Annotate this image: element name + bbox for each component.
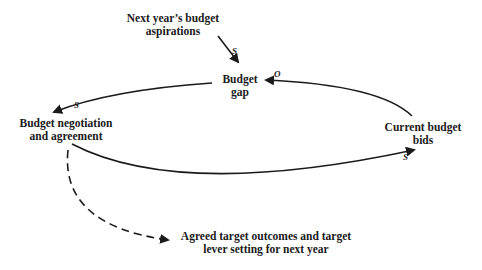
node-label-line1: Next year’s budget	[118, 12, 228, 25]
node-label-line2: and agreement	[16, 130, 116, 143]
node-budget-gap: Budget gap	[212, 73, 268, 99]
node-label-line2: gap	[212, 86, 268, 99]
node-label-line1: Agreed target outcomes and target	[176, 230, 356, 243]
node-next-years-budget-aspirations: Next year’s budget aspirations	[118, 12, 228, 38]
node-label-line1: Current budget	[378, 121, 468, 134]
node-current-budget-bids: Current budget bids	[378, 121, 468, 147]
link-bids-to-gap	[266, 80, 412, 116]
link-negotiation-to-targets-dashed	[67, 150, 168, 240]
node-label-line1: Budget	[212, 73, 268, 86]
polarity-bids-to-gap: O	[274, 69, 281, 79]
node-budget-negotiation-and-agreement: Budget negotiation and agreement	[16, 117, 116, 143]
node-agreed-target-outcomes: Agreed target outcomes and target lever …	[176, 230, 356, 256]
node-label-line1: Budget negotiation	[16, 117, 116, 130]
node-label-line2: aspirations	[118, 25, 228, 38]
link-negotiation-to-bids	[72, 144, 414, 174]
node-label-line2: bids	[378, 134, 468, 147]
polarity-gap-to-negotiation: S	[74, 100, 79, 110]
polarity-aspirations-to-gap: S	[232, 46, 237, 56]
polarity-negotiation-to-bids: S	[403, 152, 408, 162]
node-label-line2: lever setting for next year	[176, 243, 356, 256]
